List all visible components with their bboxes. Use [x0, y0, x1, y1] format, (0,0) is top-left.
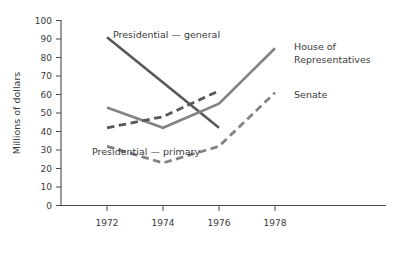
y-tick-label: 100: [35, 16, 52, 26]
y-tick-label: 0: [46, 201, 52, 211]
annotation-presidential-primary: Presidential — primary: [92, 146, 201, 157]
x-tick-label: 1978: [264, 218, 287, 228]
x-axis-tick-labels: 1972 1974 1976 1978: [96, 218, 287, 228]
y-axis-title: Millions of dollars: [11, 72, 22, 155]
y-tick-label: 20: [41, 164, 53, 174]
x-tick-label: 1972: [96, 218, 119, 228]
y-tick-label: 30: [41, 145, 53, 155]
series-line-presidential-primary: [107, 91, 219, 128]
y-tick-label: 70: [41, 71, 53, 81]
x-tick-label: 1976: [208, 218, 231, 228]
annotation-senate: Senate: [294, 89, 327, 100]
y-tick-label: 50: [41, 108, 53, 118]
y-tick-label: 80: [41, 53, 53, 63]
y-tick-label: 40: [41, 127, 53, 137]
chart-container: 0 10 20 30 40 50 60 70 80 90 100 1972 19…: [0, 0, 402, 257]
y-axis-ticks: [56, 21, 61, 206]
y-tick-label: 10: [41, 182, 53, 192]
line-chart: 0 10 20 30 40 50 60 70 80 90 100 1972 19…: [0, 0, 402, 257]
y-tick-label: 60: [41, 90, 53, 100]
x-axis-ticks: [107, 206, 275, 212]
x-tick-label: 1974: [152, 218, 175, 228]
annotation-house-line2: Representatives: [294, 54, 371, 65]
y-tick-label: 90: [41, 34, 53, 44]
annotation-presidential-general: Presidential — general: [113, 29, 220, 40]
y-axis-tick-labels: 0 10 20 30 40 50 60 70 80 90 100: [35, 16, 52, 211]
annotation-house-line1: House of: [294, 41, 337, 52]
